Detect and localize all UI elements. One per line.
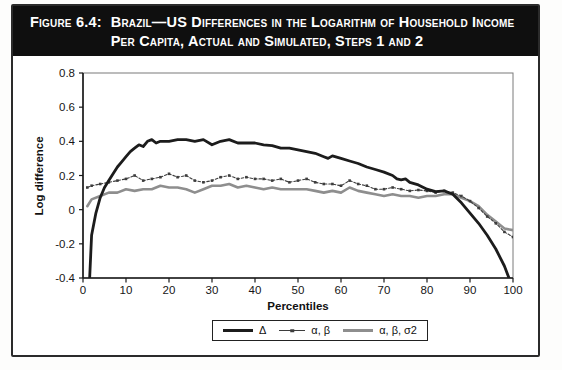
x-tick-label: 100 [503, 284, 522, 296]
square-marker [99, 183, 102, 186]
square-marker [366, 184, 369, 187]
series-line-1 [87, 174, 513, 237]
square-marker [314, 181, 317, 184]
plot-frame [83, 73, 513, 278]
square-marker [297, 179, 300, 182]
y-tick-label: 0 [69, 204, 75, 216]
square-marker [176, 176, 179, 179]
square-marker [383, 188, 386, 191]
x-tick-label: 50 [292, 284, 305, 296]
legend-label-delta: Δ [259, 325, 266, 336]
series-line-0 [90, 140, 511, 284]
square-marker [469, 200, 472, 203]
x-tick-label: 60 [335, 284, 348, 296]
figure-title: Brazil—US Differences in the Logarithm o… [111, 13, 526, 51]
figure-number-label: Figure 6.4: [30, 13, 102, 32]
square-marker [486, 215, 489, 218]
square-marker [271, 179, 274, 182]
figure-title-banner: Figure 6.4: Brazil—US Differences in the… [13, 6, 538, 56]
square-marker [288, 181, 291, 184]
square-marker [237, 178, 240, 181]
square-marker [280, 178, 283, 181]
series-group [86, 140, 514, 284]
square-marker [211, 179, 214, 182]
x-tick-label: 0 [80, 284, 86, 296]
square-marker [409, 190, 412, 193]
x-tick-label: 80 [421, 284, 434, 296]
x-tick-label: 30 [206, 284, 219, 296]
square-marker [202, 181, 205, 184]
y-tick-label: 0.6 [59, 101, 75, 113]
y-tick-label: 0.8 [59, 67, 75, 79]
x-tick-label: 20 [163, 284, 176, 296]
square-marker [194, 179, 197, 182]
square-marker [168, 173, 171, 176]
square-marker [323, 183, 326, 186]
y-tick-label: -0.4 [55, 272, 75, 284]
square-marker [477, 207, 480, 210]
y-axis-title: Log difference [33, 136, 45, 215]
y-tick-label: 0.4 [59, 135, 76, 147]
legend-item-delta: Δ [223, 325, 266, 336]
square-marker [512, 236, 515, 239]
square-marker [125, 178, 128, 181]
y-tick-label: 0.2 [59, 170, 75, 182]
alpha-beta-line-swatch-icon [279, 330, 305, 331]
x-tick-label: 10 [120, 284, 133, 296]
x-tick-label: 90 [464, 284, 477, 296]
square-marker [503, 231, 506, 234]
legend-label-alpha-beta: α, β [311, 325, 330, 336]
square-marker [374, 188, 377, 191]
legend-item-alpha-beta-sigma: α, β, σ2 [343, 325, 417, 336]
square-marker [86, 186, 89, 189]
y-tick-label: -0.2 [55, 238, 75, 250]
square-marker [133, 174, 136, 177]
legend-label-alpha-beta-sigma: α, β, σ2 [379, 325, 417, 336]
figure-box: Figure 6.4: Brazil—US Differences in the… [11, 4, 540, 357]
series-line-2 [87, 184, 513, 230]
x-tick-label: 70 [378, 284, 391, 296]
delta-line-swatch-icon [223, 329, 253, 333]
square-marker [400, 188, 403, 191]
square-marker [348, 179, 351, 182]
square-marker [495, 222, 498, 225]
square-marker [331, 183, 334, 186]
square-marker [460, 195, 463, 198]
square-marker [245, 176, 248, 179]
square-marker [391, 186, 394, 189]
square-marker [151, 178, 154, 181]
square-marker [305, 178, 308, 181]
x-axis-title: Percentiles [267, 300, 328, 312]
square-marker [116, 179, 119, 182]
chart-svg: Log difference Percentiles 0.80.60.40.20… [13, 56, 534, 351]
square-marker [142, 179, 145, 182]
x-tick-label: 40 [249, 284, 262, 296]
chart-legend: Δ α, β α, β, σ2 [212, 320, 428, 341]
alpha-beta-sigma-line-swatch-icon [343, 329, 373, 333]
chart-area: Log difference Percentiles 0.80.60.40.20… [13, 56, 534, 351]
square-marker [254, 178, 257, 181]
square-marker [357, 183, 360, 186]
square-marker [340, 184, 343, 187]
square-marker [417, 189, 420, 192]
square-marker [219, 176, 222, 179]
legend-item-alpha-beta: α, β [279, 325, 330, 336]
scanned-figure-page: Figure 6.4: Brazil—US Differences in the… [0, 0, 562, 370]
square-marker [90, 184, 93, 187]
square-marker [228, 174, 231, 177]
square-marker [185, 174, 188, 177]
square-marker [262, 178, 265, 181]
square-marker [159, 176, 162, 179]
